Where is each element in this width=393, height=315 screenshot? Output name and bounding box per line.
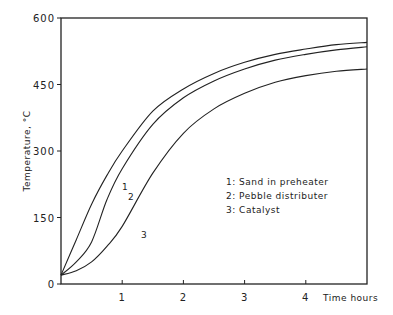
series-line-1 <box>61 42 367 275</box>
series-label: 2 <box>128 192 134 202</box>
x-tick-label: 3 <box>241 292 248 303</box>
y-axis-label: Temperature, °C <box>22 110 32 192</box>
y-tick-label: 300 <box>33 146 55 157</box>
y-tick-label: 600 <box>33 13 55 24</box>
legend-entry: 1: Sand in preheater <box>226 177 328 187</box>
series-line-2 <box>61 47 367 275</box>
y-tick-label: 0 <box>48 279 55 290</box>
legend-entry: 2: Pebble distributer <box>226 191 328 201</box>
x-tick-label: 4 <box>302 292 309 303</box>
chart: 01503004506001234Time hoursTemperature, … <box>0 0 393 315</box>
series-label: 3 <box>141 230 147 240</box>
y-tick-label: 450 <box>33 80 55 91</box>
x-tick-label: 1 <box>119 292 126 303</box>
series-line-3 <box>61 69 367 275</box>
y-tick-label: 150 <box>33 213 55 224</box>
plot-frame <box>61 18 367 284</box>
legend-entry: 3: Catalyst <box>226 205 280 215</box>
plot-area: 01503004506001234Time hoursTemperature, … <box>0 0 393 315</box>
series-label: 1 <box>122 182 128 192</box>
x-axis-label: Time hours <box>322 293 378 303</box>
x-tick-label: 2 <box>180 292 187 303</box>
